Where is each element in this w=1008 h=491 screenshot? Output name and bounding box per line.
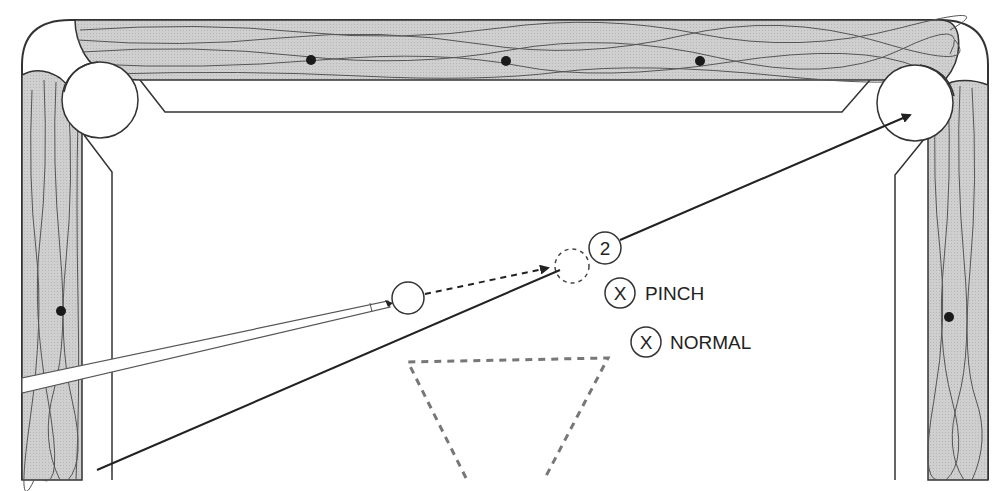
normal-label: NORMAL	[670, 332, 751, 353]
rail-diamond	[501, 56, 511, 66]
pinch-label: PINCH	[645, 283, 704, 304]
object-ball-2: 2	[589, 232, 621, 264]
rail-diamond	[56, 306, 66, 316]
cue-ball-path	[425, 268, 548, 294]
rail-diamond	[695, 56, 705, 66]
aim-point-normal: X NORMAL	[631, 327, 751, 357]
top-rail	[75, 15, 967, 82]
table-frame	[22, 20, 988, 480]
rack-outline	[408, 358, 608, 478]
aim-line	[97, 270, 560, 470]
object-ball-path	[620, 115, 910, 240]
x-mark-icon: X	[640, 332, 653, 353]
rail-diamond	[306, 55, 316, 65]
right-rail	[928, 81, 988, 480]
cushion-lines	[84, 80, 925, 480]
rail-diamond	[944, 312, 954, 322]
ball-number: 2	[600, 238, 611, 259]
aim-point-pinch: X PINCH	[605, 278, 704, 308]
corner-pocket-right	[877, 65, 954, 141]
x-mark-icon: X	[614, 283, 627, 304]
corner-pocket-left	[62, 62, 138, 138]
pool-table-diagram: 2 X PINCH X NORMAL	[0, 0, 1008, 491]
left-rail	[22, 71, 82, 491]
ghost-ball	[555, 249, 589, 283]
cue-ball	[392, 282, 424, 314]
